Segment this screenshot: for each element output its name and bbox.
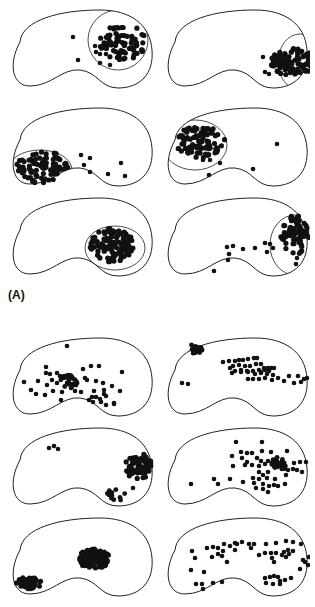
arena-plot: [155, 2, 310, 97]
arena-panel-f2: [155, 510, 310, 605]
spike-dots: [176, 125, 280, 177]
spike-dots: [212, 214, 310, 274]
spike-dots: [261, 46, 310, 77]
spike-dots: [47, 444, 154, 503]
arena-plot: [155, 100, 310, 195]
arena-panel-f1: [0, 510, 155, 605]
arena-panel-e1: [0, 420, 155, 515]
arena-panel-c2: [155, 190, 310, 285]
spike-dots: [15, 150, 128, 186]
arena-panel-d2: [155, 330, 310, 425]
arena-plot: [0, 420, 155, 515]
arena-plot: [155, 190, 310, 285]
arena-panel-b2: [155, 100, 310, 195]
arena-panel-a2: [155, 2, 310, 97]
arena-panel-c1: [0, 190, 155, 285]
arena-panel-b1: [0, 100, 155, 195]
spike-dots: [14, 547, 111, 592]
arena-outline: [13, 338, 152, 416]
arena-plot: [155, 330, 310, 425]
arena-plot: [155, 420, 310, 515]
arena-plot: [155, 510, 310, 605]
arena-panel-e2: [155, 420, 310, 515]
arena-plot: [0, 190, 155, 285]
arena-plot: [0, 330, 155, 425]
arena-plot: [0, 100, 155, 195]
arena-panel-d1: [0, 330, 155, 425]
arena-plot: [0, 2, 155, 97]
arena-panel-a1: [0, 2, 155, 97]
arena-outline: [168, 338, 307, 416]
spike-dots: [71, 25, 147, 67]
spike-dots: [180, 343, 310, 387]
panel-label-a: (A): [8, 288, 25, 302]
spike-dots: [189, 440, 309, 495]
arena-plot: [0, 510, 155, 605]
